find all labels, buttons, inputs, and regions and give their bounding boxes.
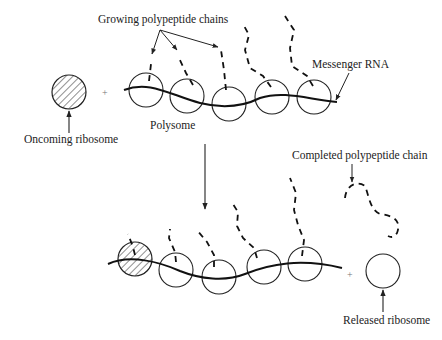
ribosome-2	[170, 79, 204, 113]
polysome-diagram: Oncoming ribosome + Growing polypeptide …	[0, 0, 442, 340]
oncoming-ribosome	[52, 75, 86, 109]
messenger-rna-label: Messenger RNA	[312, 58, 390, 71]
plus-sign-top: +	[102, 87, 108, 98]
oncoming-ribosome-label: Oncoming ribosome	[24, 133, 118, 146]
completed-chain-label: Completed polypeptide chain	[292, 149, 428, 162]
diagram-canvas: Oncoming ribosome + Growing polypeptide …	[0, 0, 442, 340]
messenger-rna-pointer	[336, 73, 349, 100]
plus-sign-bottom: +	[347, 269, 353, 280]
growing-chains-pointers	[152, 30, 218, 54]
growing-polypeptide-chains-top	[149, 16, 313, 90]
polysome-label: Polysome	[150, 119, 195, 132]
released-ribosome	[366, 254, 400, 288]
released-ribosome-label: Released ribosome	[343, 314, 430, 326]
growing-chains-label: Growing polypeptide chains	[98, 13, 229, 26]
bottom-ribosomes	[118, 242, 322, 294]
completed-polypeptide-chain	[345, 184, 398, 237]
growing-polypeptide-chains-bottom	[128, 178, 304, 267]
